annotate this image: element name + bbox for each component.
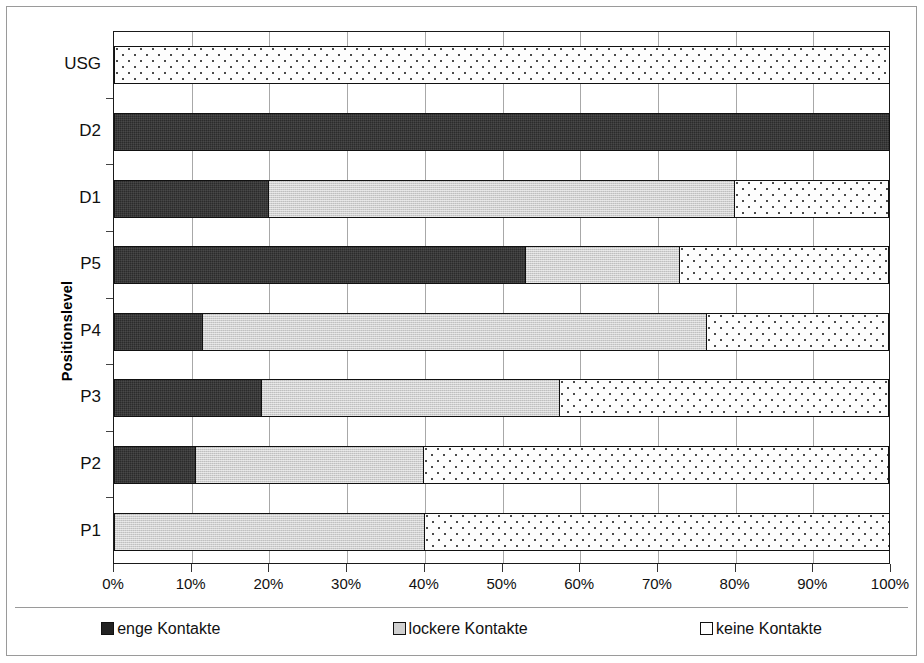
- y-axis-tick: [106, 164, 113, 165]
- bar-segment-lockere[interactable]: [261, 379, 560, 417]
- bar-segment-enge[interactable]: [114, 446, 196, 484]
- x-axis-tick-label: 60%: [564, 575, 594, 592]
- bar-segment-lockere[interactable]: [525, 246, 680, 284]
- x-axis-tick: [890, 564, 891, 572]
- y-axis-label-d1: D1: [79, 189, 101, 206]
- y-axis-label-p4: P4: [80, 322, 101, 339]
- y-axis-tick: [106, 364, 113, 365]
- legend-item[interactable]: keine Kontakte: [700, 620, 822, 638]
- x-axis-tick: [113, 564, 114, 572]
- x-axis-tick: [579, 564, 580, 572]
- dark-swatch-icon: [101, 622, 114, 635]
- chart-frame: Positionslevel USGD2D1P5P4P3P2P1 0%10%20…: [6, 6, 917, 656]
- bar-segment-keine[interactable]: [559, 379, 889, 417]
- bar-segment-enge[interactable]: [114, 113, 890, 151]
- x-axis-tick-label: 40%: [409, 575, 439, 592]
- x-axis-tick: [812, 564, 813, 572]
- x-axis-tick-label: 70%: [642, 575, 672, 592]
- x-axis: 0%10%20%30%40%50%60%70%80%90%100%: [113, 564, 890, 598]
- stacked-bar[interactable]: [114, 180, 889, 218]
- x-axis-tick-label: 50%: [486, 575, 516, 592]
- plot-area: [113, 31, 890, 564]
- y-axis-tick: [106, 497, 113, 498]
- gray-swatch-icon: [393, 622, 406, 635]
- stacked-bar[interactable]: [114, 46, 889, 84]
- chart-legend: enge Kontaktelockere Kontaktekeine Konta…: [15, 607, 908, 649]
- x-axis-tick-label: 30%: [331, 575, 361, 592]
- legend-item[interactable]: enge Kontakte: [101, 620, 220, 638]
- bar-segment-lockere[interactable]: [268, 180, 734, 218]
- y-axis-tick: [106, 231, 113, 232]
- x-axis-tick-label: 90%: [797, 575, 827, 592]
- x-axis-tick: [268, 564, 269, 572]
- bar-segment-enge[interactable]: [114, 180, 269, 218]
- x-axis-tick: [191, 564, 192, 572]
- legend-item[interactable]: lockere Kontakte: [393, 620, 528, 638]
- bar-row: [114, 365, 889, 432]
- x-axis-tick-label: 0%: [102, 575, 124, 592]
- legend-label: keine Kontakte: [716, 620, 822, 638]
- y-axis-label-d2: D2: [79, 122, 101, 139]
- bar-segment-enge[interactable]: [114, 246, 526, 284]
- y-axis-label-p2: P2: [80, 455, 101, 472]
- stacked-bar[interactable]: [114, 513, 889, 551]
- x-axis-tick-label: 10%: [176, 575, 206, 592]
- bar-row: [114, 498, 889, 565]
- bar-segment-keine[interactable]: [114, 46, 890, 84]
- x-axis-tick-label: 100%: [871, 575, 909, 592]
- y-axis-label-usg: USG: [64, 55, 101, 72]
- bar-row: [114, 232, 889, 299]
- x-axis-tick-label: 80%: [720, 575, 750, 592]
- x-axis-tick-label: 20%: [253, 575, 283, 592]
- bar-segment-lockere[interactable]: [114, 513, 425, 551]
- bar-segment-keine[interactable]: [679, 246, 889, 284]
- bar-row: [114, 432, 889, 499]
- x-axis-tick: [735, 564, 736, 572]
- y-axis-label-p1: P1: [80, 522, 101, 539]
- bar-segment-lockere[interactable]: [202, 313, 707, 351]
- x-axis-tick: [346, 564, 347, 572]
- x-axis-tick: [424, 564, 425, 572]
- y-axis-label-p3: P3: [80, 388, 101, 405]
- bar-segment-enge[interactable]: [114, 379, 262, 417]
- stacked-bar[interactable]: [114, 379, 889, 417]
- stacked-bar[interactable]: [114, 246, 889, 284]
- bar-segment-keine[interactable]: [423, 446, 889, 484]
- bar-segment-keine[interactable]: [706, 313, 889, 351]
- y-axis-category-labels: USGD2D1P5P4P3P2P1: [7, 31, 113, 564]
- bar-segment-lockere[interactable]: [195, 446, 424, 484]
- bar-row: [114, 32, 889, 99]
- bar-segment-keine[interactable]: [424, 513, 890, 551]
- legend-label: lockere Kontakte: [409, 620, 528, 638]
- bar-row: [114, 99, 889, 166]
- y-axis-tick: [106, 298, 113, 299]
- x-axis-tick: [502, 564, 503, 572]
- bar-segment-keine[interactable]: [734, 180, 889, 218]
- bar-segment-enge[interactable]: [114, 313, 203, 351]
- stacked-bar[interactable]: [114, 313, 889, 351]
- legend-label: enge Kontakte: [117, 620, 220, 638]
- y-axis-tick: [106, 98, 113, 99]
- stacked-bar[interactable]: [114, 113, 889, 151]
- stacked-bar[interactable]: [114, 446, 889, 484]
- bar-row: [114, 299, 889, 366]
- x-axis-tick: [657, 564, 658, 572]
- white-swatch-icon: [700, 622, 713, 635]
- bar-row: [114, 165, 889, 232]
- y-axis-label-p5: P5: [80, 255, 101, 272]
- y-axis-tick: [106, 431, 113, 432]
